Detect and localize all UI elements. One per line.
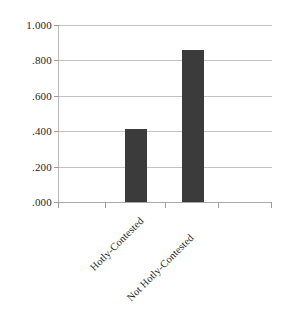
- bar-chart: 1.000 .800 .600 .400 .200 .000 Hotly-Con…: [0, 0, 286, 335]
- y-tick-mark-1.000: [54, 25, 59, 26]
- y-tick-mark-0.200: [54, 167, 59, 168]
- gridline-1.000: [58, 25, 272, 26]
- x-axis-label-hotly-contested: Hotly-Contested: [25, 215, 147, 335]
- y-tick-label-0.600: .600: [4, 91, 52, 102]
- x-axis-label-not-hotly-contested: Not Hotly-Contested: [75, 232, 197, 335]
- gridline-0.600: [58, 96, 272, 97]
- y-tick-mark-0.400: [54, 131, 59, 132]
- y-axis-line: [58, 25, 59, 203]
- x-tick-mark-4: [271, 202, 272, 208]
- plot-area: [58, 25, 272, 202]
- y-tick-label-0.400: .400: [4, 126, 52, 137]
- y-tick-mark-0.800: [54, 60, 59, 61]
- bar-not-hotly-contested: [182, 50, 204, 202]
- y-tick-label-0.000: .000: [4, 197, 52, 208]
- x-tick-mark-0: [58, 202, 59, 208]
- y-tick-label-0.200: .200: [4, 162, 52, 173]
- gridline-0.400: [58, 131, 272, 132]
- x-tick-mark-1: [105, 202, 106, 208]
- x-tick-mark-2: [165, 202, 166, 208]
- gridline-0.200: [58, 167, 272, 168]
- gridline-0.800: [58, 60, 272, 61]
- y-tick-mark-0.600: [54, 96, 59, 97]
- x-tick-mark-3: [218, 202, 219, 208]
- y-tick-label-1.000: 1.000: [4, 20, 52, 31]
- bar-hotly-contested: [125, 129, 147, 202]
- y-tick-label-0.800: .800: [4, 55, 52, 66]
